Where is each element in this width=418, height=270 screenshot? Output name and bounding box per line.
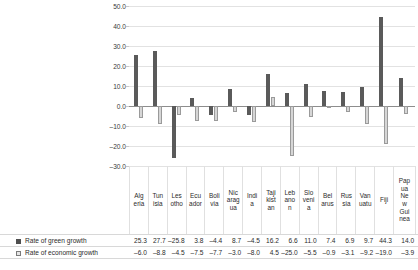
bar-economic-growth[interactable] — [214, 106, 218, 121]
value-green-growth: 14.0 — [393, 237, 415, 245]
value-economic-growth: 4.5 — [261, 249, 280, 257]
value-green-growth: 3.8 — [186, 237, 205, 245]
bar-group[interactable] — [186, 6, 205, 166]
category-label-text: Lesotho — [170, 192, 182, 207]
bar-economic-growth[interactable] — [158, 106, 162, 124]
value-green-growth: 6.9 — [336, 237, 355, 245]
bar-green-growth[interactable] — [247, 106, 251, 115]
category-label-text: Tunisia — [152, 192, 163, 207]
value-economic-growth: –3.9 — [393, 249, 415, 257]
bar-green-growth[interactable] — [153, 51, 157, 106]
bar-green-growth[interactable] — [341, 92, 345, 106]
category-label-text: Nicaragua — [227, 189, 240, 212]
bar-economic-growth[interactable] — [384, 106, 388, 144]
y-axis-tick-label: 30.0 — [96, 43, 126, 50]
legend-label-green-growth: Rate of green growth — [25, 237, 87, 245]
bar-green-growth[interactable] — [285, 93, 289, 106]
legend-entry-economic-growth: Rate of economic growth — [0, 249, 129, 257]
value-green-growth: 6.6 — [280, 237, 299, 245]
bar-green-growth[interactable] — [172, 106, 176, 158]
bar-economic-growth[interactable] — [290, 106, 294, 156]
category-label-text: Lebanon — [284, 189, 295, 212]
category-label-text: Russia — [341, 192, 352, 207]
plot-area: 50.040.030.020.010.00.0–10.0–20.0–30.0 — [0, 6, 418, 166]
bar-green-growth[interactable] — [134, 55, 138, 106]
bar-group[interactable] — [261, 6, 280, 166]
bar-economic-growth[interactable] — [327, 106, 331, 108]
bar-group[interactable] — [317, 6, 336, 166]
y-axis-tick-label: 40.0 — [96, 23, 126, 30]
category-label: Fiji — [375, 166, 394, 234]
bar-green-growth[interactable] — [379, 17, 383, 106]
category-label: Belarus — [319, 166, 338, 234]
legend-entry-green-growth: Rate of green growth — [0, 237, 129, 245]
y-axis-tick-label: 0.0 — [96, 103, 126, 110]
bar-economic-growth[interactable] — [365, 106, 369, 124]
bar-green-growth[interactable] — [322, 91, 326, 106]
value-economic-growth: –7.5 — [186, 249, 205, 257]
bar-group[interactable] — [299, 6, 318, 166]
value-economic-growth: –3.1 — [336, 249, 355, 257]
bar-economic-growth[interactable] — [139, 106, 143, 118]
y-axis-tick-label: 10.0 — [96, 83, 126, 90]
bar-green-growth[interactable] — [399, 78, 403, 106]
value-green-growth: 25.3 — [129, 237, 148, 245]
bar-green-growth[interactable] — [228, 89, 232, 106]
y-axis-tick-label: 20.0 — [96, 63, 126, 70]
y-axis-tick-label: 50.0 — [96, 3, 126, 10]
y-axis-tick-label: –10.0 — [96, 123, 126, 130]
bar-green-growth[interactable] — [266, 74, 270, 106]
bar-group[interactable] — [280, 6, 299, 166]
category-label-text: Ecuador — [189, 192, 202, 207]
bar-group[interactable] — [148, 6, 167, 166]
value-green-growth: 8.7 — [223, 237, 242, 245]
category-label-text: Slovenia — [303, 189, 315, 212]
bar-economic-growth[interactable] — [346, 106, 350, 112]
bar-green-growth[interactable] — [190, 98, 194, 106]
bar-economic-growth[interactable] — [233, 106, 237, 112]
value-economic-growth: –7.7 — [204, 249, 223, 257]
bar-green-growth[interactable] — [209, 106, 213, 115]
category-label-text: India — [247, 192, 257, 207]
bar-group[interactable] — [223, 6, 242, 166]
bar-economic-growth[interactable] — [404, 106, 408, 114]
category-label: Algeria — [130, 166, 149, 234]
y-axis-tick-label: –20.0 — [96, 143, 126, 150]
chart-figure: 50.040.030.020.010.00.0–10.0–20.0–30.0 A… — [0, 0, 418, 270]
bar-green-growth[interactable] — [360, 87, 364, 106]
value-economic-growth: –6.0 — [129, 249, 148, 257]
bar-group[interactable] — [374, 6, 393, 166]
category-label: Slovenia — [300, 166, 319, 234]
legend-swatch-economic-growth — [16, 251, 21, 256]
category-label-row: AlgeriaTunisiaLesothoEcuadorBoliviaNicar… — [129, 166, 416, 234]
bar-green-growth[interactable] — [304, 84, 308, 106]
value-green-growth: 7.4 — [318, 237, 337, 245]
bar-group[interactable] — [242, 6, 261, 166]
value-green-growth: –4.4 — [204, 237, 223, 245]
value-green-growth: –4.5 — [242, 237, 261, 245]
value-economic-growth: –5.5 — [299, 249, 318, 257]
value-cells-economic-growth: –6.0–8.8–4.5–7.5–7.7–3.0–8.04.5–25.0–5.5… — [129, 249, 415, 257]
value-green-growth: 27.7 — [148, 237, 167, 245]
value-economic-growth: –3.0 — [223, 249, 242, 257]
bar-group[interactable] — [393, 6, 415, 166]
bar-economic-growth[interactable] — [309, 106, 313, 117]
category-label: Russia — [337, 166, 356, 234]
bar-economic-growth[interactable] — [271, 97, 275, 106]
category-label-text: Algeria — [134, 192, 145, 207]
bar-group[interactable] — [167, 6, 186, 166]
value-green-growth: 16.2 — [261, 237, 280, 245]
category-label-text: PapuaNewGuinea — [399, 177, 410, 223]
bar-group[interactable] — [129, 6, 148, 166]
bar-group[interactable] — [204, 6, 223, 166]
y-axis: 50.040.030.020.010.00.0–10.0–20.0–30.0 — [96, 6, 126, 166]
bar-economic-growth[interactable] — [177, 106, 181, 115]
bar-group[interactable] — [336, 6, 355, 166]
bar-economic-growth[interactable] — [252, 106, 256, 122]
bar-economic-growth[interactable] — [195, 106, 199, 121]
value-green-growth: –25.8 — [167, 237, 186, 245]
bar-group[interactable] — [355, 6, 374, 166]
value-economic-growth: –8.0 — [242, 249, 261, 257]
value-economic-growth: –19.0 — [374, 249, 393, 257]
category-label-text: Vanuatu — [359, 192, 371, 207]
